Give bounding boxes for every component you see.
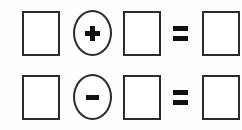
equals-icon [172,89,190,106]
plus-operator-circle [73,10,112,56]
minus-icon [84,89,101,106]
operand-2-blank[interactable] [123,75,161,120]
plus-icon [84,25,101,42]
equation-row [0,7,242,59]
operand-1-blank[interactable] [22,75,60,120]
worksheet-canvas [0,0,242,130]
result-blank[interactable] [202,11,240,56]
equation-row [0,71,242,123]
result-blank[interactable] [202,75,240,120]
operand-2-blank[interactable] [123,11,161,56]
minus-operator-circle [73,74,112,120]
equals-icon [172,25,190,42]
operand-1-blank[interactable] [22,11,60,56]
